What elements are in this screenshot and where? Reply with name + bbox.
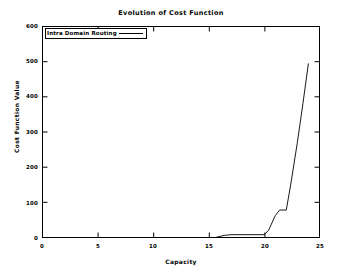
plot-canvas	[0, 0, 342, 275]
chart-figure: Evolution of Cost Function Cost Function…	[0, 0, 342, 275]
legend-line-sample	[119, 33, 143, 34]
x-tick-marks	[43, 27, 320, 238]
plot-border	[43, 27, 320, 238]
legend-entry-label: Intra Domain Routing	[47, 30, 117, 36]
y-tick-marks	[43, 27, 320, 238]
data-series-line	[43, 63, 309, 237]
